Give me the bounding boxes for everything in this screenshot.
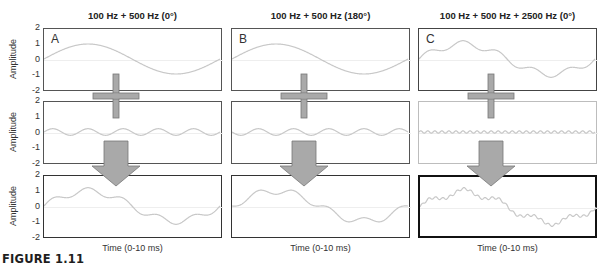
plus-icon [467,73,515,119]
y-tick: 2 [26,169,40,179]
y-tick: 0 [26,54,40,64]
panel-letter: B [239,32,247,46]
x-axis-label: Time (0-10 ms) [231,243,410,253]
y-tick: -1 [26,142,40,152]
y-axis-label: Amplitude [8,29,18,89]
y-tick: 2 [26,22,40,32]
down-arrow-icon [465,140,517,188]
plus-icon [92,73,140,119]
y-axis-label: Amplitude [8,176,18,236]
column-title-c: 100 Hz + 500 Hz + 2500 Hz (0°) [418,10,597,21]
column-title-a: 100 Hz + 500 Hz (0°) [43,10,222,21]
panel-letter: A [51,32,59,46]
panel-letter: C [426,32,435,46]
down-arrow-icon [278,140,330,188]
plus-icon [280,73,328,119]
y-tick: 2 [26,95,40,105]
y-axis-label: Amplitude [8,102,18,162]
y-tick: 0 [26,127,40,137]
y-tick: 0 [26,201,40,211]
x-axis-label: Time (0-10 ms) [418,243,597,253]
figure-caption: FIGURE 1.11 [2,252,84,266]
y-tick: -2 [26,85,40,95]
y-tick: -1 [26,216,40,226]
down-arrow-icon [90,140,142,188]
y-tick: 1 [26,38,40,48]
column-title-b: 100 Hz + 500 Hz (180°) [231,10,410,21]
y-tick: -2 [26,232,40,242]
y-tick: 1 [26,111,40,121]
y-tick: 1 [26,185,40,195]
y-tick: -1 [26,69,40,79]
y-tick: -2 [26,158,40,168]
